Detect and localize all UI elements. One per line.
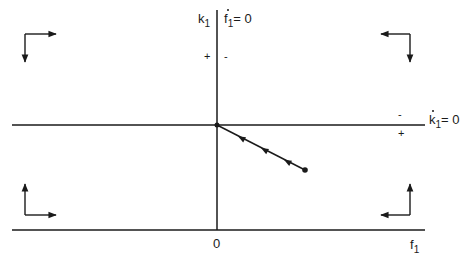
sign-left-of-f1-isocline: + [204, 51, 210, 62]
sign-below-k1-isocline: + [398, 128, 404, 139]
saddle-path-trajectory [215, 123, 308, 173]
isocline-var: k [429, 113, 436, 126]
isocline-label-k1-dot-zero: k1= 0 [429, 113, 460, 126]
trajectory-arrow-icon [238, 136, 246, 142]
horizontal-axis-label: f1 [410, 238, 419, 251]
isocline-sub: 1 [228, 18, 234, 29]
quadrant-arrows-top-right [381, 34, 410, 62]
isocline-rhs: = 0 [233, 11, 251, 26]
isocline-rhs: = 0 [441, 112, 459, 127]
trajectory-arrow-icon [261, 148, 269, 154]
start-point [302, 167, 308, 173]
vertical-axis-label: k1 [198, 12, 210, 25]
quadrant-arrows-top-left [25, 34, 56, 62]
sign-above-k1-isocline: - [398, 109, 402, 120]
isocline-label-f1-dot-zero: f1= 0 [224, 12, 252, 25]
quadrant-arrows-bottom-left [25, 184, 56, 215]
origin-point [215, 123, 220, 128]
sign-right-of-f1-isocline: - [224, 51, 228, 62]
quadrant-arrows-bottom-right [381, 184, 410, 215]
isocline-sub: 1 [436, 119, 442, 130]
axis-var: k [198, 11, 205, 26]
axis-sub: 1 [414, 244, 420, 255]
origin-label: 0 [213, 237, 220, 250]
axis-sub: 1 [205, 18, 211, 29]
trajectory-arrow-icon [284, 160, 292, 166]
